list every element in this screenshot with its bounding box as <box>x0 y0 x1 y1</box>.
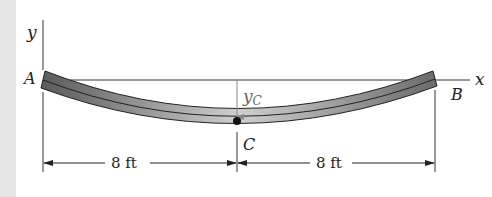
point-c-dot <box>233 117 241 125</box>
dimension-label-ac: 8 ft <box>111 154 137 172</box>
point-a-label: A <box>22 69 36 88</box>
deflection-label-main: y <box>242 86 253 106</box>
dimension-label-cb: 8 ft <box>316 154 342 172</box>
point-c-label: C <box>243 135 255 154</box>
point-b-label: B <box>450 85 463 104</box>
x-axis-label: x <box>475 69 485 89</box>
y-axis-label: y <box>26 22 37 42</box>
deflection-label: yC <box>242 86 262 108</box>
deflection-label-sub: C <box>253 94 262 108</box>
beam-diagram: y x A B C yC 8 ft 8 ft <box>0 0 492 197</box>
